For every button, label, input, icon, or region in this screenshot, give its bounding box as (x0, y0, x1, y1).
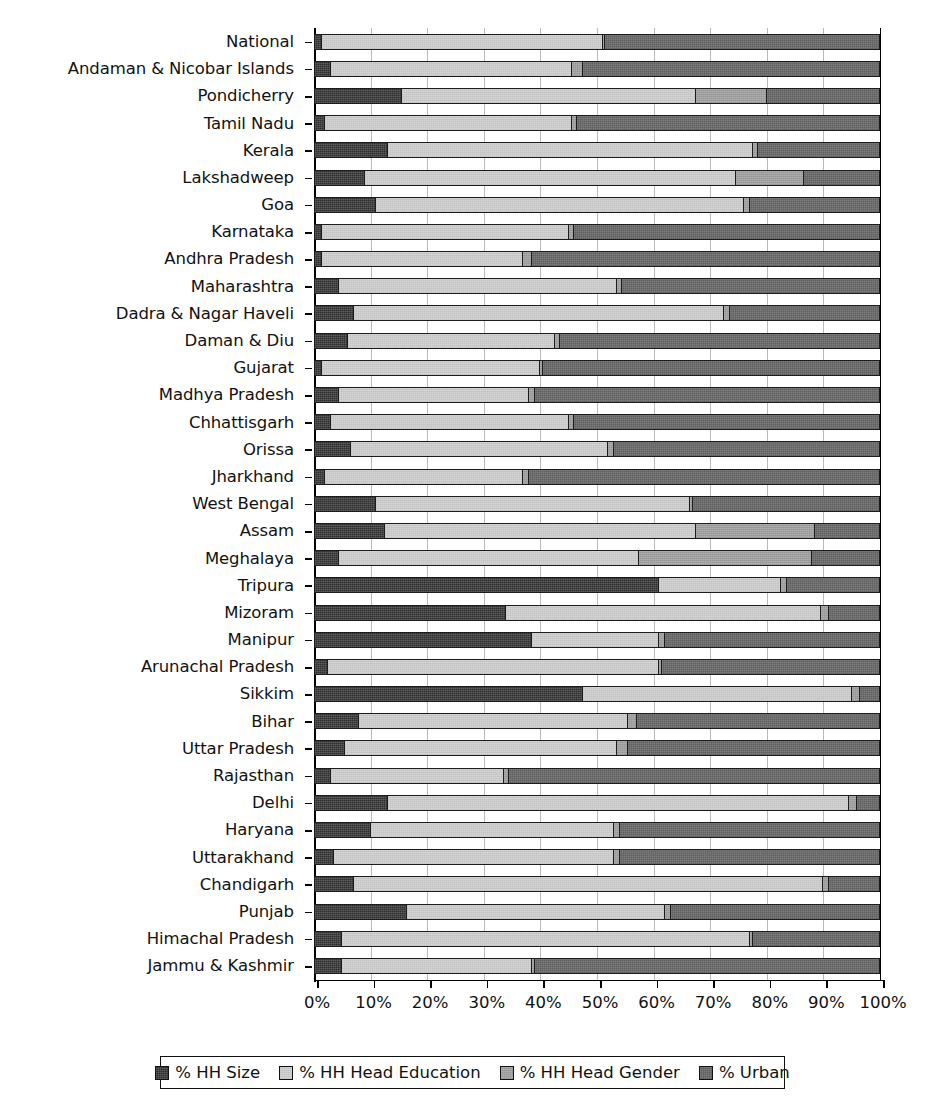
bar-segment (659, 577, 781, 593)
bar-track (314, 246, 880, 273)
category-label: Manipur (0, 631, 305, 648)
category-label: Kerala (0, 142, 305, 159)
bar-segment (617, 740, 628, 756)
bar-segment (314, 659, 328, 675)
category-label: Uttar Pradesh (0, 740, 305, 757)
bar-segment (829, 605, 880, 621)
chart-row: Daman & Diu (0, 327, 937, 354)
x-tick (657, 980, 659, 988)
bar-segment (314, 849, 334, 865)
bar-segment (365, 170, 736, 186)
category-label: Arunachal Pradesh (0, 658, 305, 675)
chart-row: Andaman & Nicobar Islands (0, 55, 937, 82)
stacked-bar (314, 713, 880, 729)
bar-segment (314, 142, 388, 158)
stacked-bar (314, 34, 880, 50)
plot-area: NationalAndaman & Nicobar IslandsPondich… (0, 28, 937, 1019)
bar-track (314, 789, 880, 816)
chart-row: Assam (0, 517, 937, 544)
bar-segment (574, 224, 880, 240)
y-axis-tick (305, 55, 314, 82)
bar-segment (614, 441, 880, 457)
y-axis-tick (305, 327, 314, 354)
bar-segment (860, 686, 880, 702)
chart-row: Kerala (0, 137, 937, 164)
chart-row: Sikkim (0, 681, 937, 708)
bar-segment (509, 768, 880, 784)
y-axis-tick (305, 762, 314, 789)
bar-segment (314, 876, 354, 892)
bar-segment (314, 61, 331, 77)
x-tick (317, 980, 319, 988)
legend-swatch-icon (699, 1066, 713, 1080)
chart-row: Uttarakhand (0, 844, 937, 871)
bar-segment (388, 795, 849, 811)
x-tick (770, 980, 772, 988)
y-axis-tick (305, 409, 314, 436)
bar-segment (371, 822, 614, 838)
stacked-bar (314, 577, 880, 593)
y-axis-tick (305, 572, 314, 599)
stacked-bar (314, 333, 880, 349)
y-axis-tick (305, 218, 314, 245)
bar-segment (821, 605, 829, 621)
category-label: Andaman & Nicobar Islands (0, 60, 305, 77)
bar-track (314, 137, 880, 164)
chart-legend: % HH Size% HH Head Education% HH Head Ge… (160, 1056, 785, 1089)
bar-segment (815, 523, 880, 539)
bar-track (314, 681, 880, 708)
bar-track (314, 273, 880, 300)
y-axis-tick (305, 517, 314, 544)
bar-segment (345, 740, 617, 756)
y-axis-tick (305, 164, 314, 191)
bar-segment (314, 469, 325, 485)
chart-row: Jharkhand (0, 463, 937, 490)
chart-row: Madhya Pradesh (0, 381, 937, 408)
category-label: Pondicherry (0, 87, 305, 104)
bar-segment (314, 496, 376, 512)
stacked-bar (314, 523, 880, 539)
x-tick (430, 980, 432, 988)
bar-track (314, 409, 880, 436)
legend-item: % HH Size (155, 1063, 260, 1082)
bar-track (314, 381, 880, 408)
y-axis-tick (305, 844, 314, 871)
bar-track (314, 463, 880, 490)
bar-segment (583, 686, 852, 702)
bar-segment (639, 550, 812, 566)
legend-swatch-icon (279, 1066, 293, 1080)
bar-segment (662, 659, 880, 675)
chart-row: Dadra & Nagar Haveli (0, 300, 937, 327)
category-label: Meghalaya (0, 550, 305, 567)
bar-segment (620, 822, 880, 838)
stacked-bar (314, 278, 880, 294)
stacked-bar (314, 414, 880, 430)
stacked-bar (314, 360, 880, 376)
stacked-bar-chart: NationalAndaman & Nicobar IslandsPondich… (0, 0, 937, 1109)
chart-row: Jammu & Kashmir (0, 952, 937, 979)
bar-track (314, 28, 880, 55)
bar-segment (359, 713, 628, 729)
chart-row: Manipur (0, 626, 937, 653)
bar-segment (620, 849, 880, 865)
bar-segment (750, 197, 880, 213)
y-axis-tick (305, 28, 314, 55)
bar-track (314, 735, 880, 762)
bar-segment (314, 686, 583, 702)
bar-segment (388, 142, 753, 158)
y-axis-tick (305, 381, 314, 408)
bar-segment (767, 88, 880, 104)
x-axis-tick-labels: 0%10%20%30%40%50%60%70%80%90%100% (0, 993, 937, 1019)
bar-segment (787, 577, 880, 593)
chart-row: Lakshadweep (0, 164, 937, 191)
bar-segment (331, 414, 569, 430)
bar-segment (314, 224, 322, 240)
bar-segment (535, 958, 880, 974)
bar-segment (314, 577, 659, 593)
bar-track (314, 952, 880, 979)
bar-track (314, 545, 880, 572)
bar-track (314, 599, 880, 626)
y-axis-tick (305, 653, 314, 680)
bar-segment (407, 904, 665, 920)
category-label: Madhya Pradesh (0, 386, 305, 403)
